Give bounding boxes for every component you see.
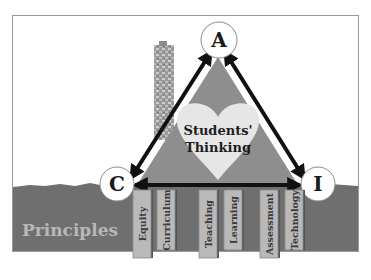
vertex-right-label: I	[313, 172, 322, 196]
pillars-group: EquityCurriculumTeachingLearningAssessme…	[133, 189, 305, 258]
diagram-canvas: Students' Thinking A C I Principles Equi…	[0, 0, 371, 280]
pillar-label: Teaching	[203, 200, 214, 248]
pillar-label: Curriculum	[161, 189, 172, 250]
pillar-curriculum: Curriculum	[157, 189, 177, 250]
vertex-left: C	[100, 167, 134, 201]
vertex-left-label: C	[109, 172, 125, 196]
pillar-label: Technology	[289, 189, 300, 250]
pillar-learning: Learning	[224, 190, 244, 250]
principles-label: Principles	[22, 220, 118, 240]
pillar-technology: Technology	[285, 189, 305, 250]
pillar-teaching: Teaching	[199, 190, 219, 258]
pillar-equity: Equity	[133, 190, 153, 258]
center-label-line2: Thinking	[185, 140, 251, 155]
center-label-line1: Students'	[184, 123, 253, 138]
pillar-label: Learning	[228, 196, 239, 244]
vertex-top-label: A	[210, 28, 227, 52]
chimney-cap	[159, 41, 167, 46]
vertex-right: I	[301, 167, 335, 201]
pillar-assessment: Assessment	[260, 190, 280, 258]
pillar-label: Assessment	[264, 192, 275, 256]
vertex-top: A	[201, 22, 237, 58]
pillar-label: Equity	[137, 206, 148, 241]
